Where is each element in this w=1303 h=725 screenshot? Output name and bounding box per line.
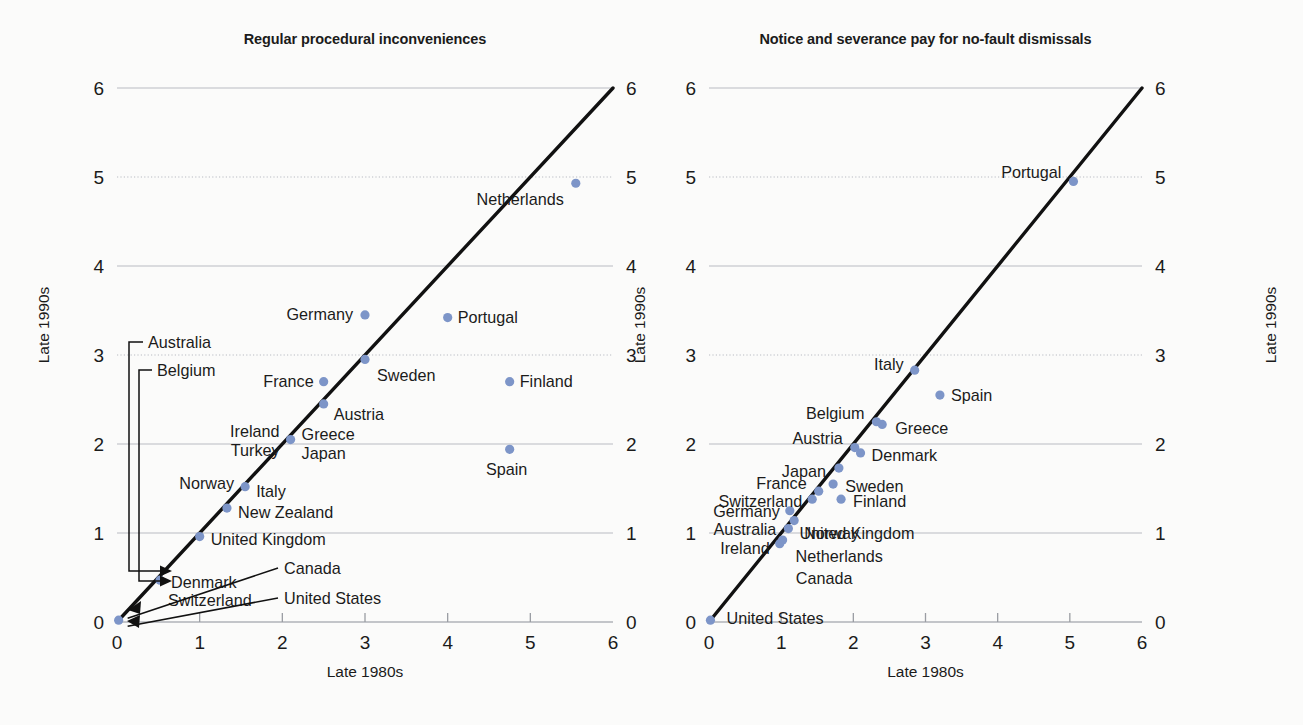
data-point-label: Spain xyxy=(486,460,527,478)
y-tick-label-left-6: 6 xyxy=(685,78,696,99)
data-point-label: United States xyxy=(284,589,381,607)
data-point-marker xyxy=(241,482,250,491)
y-tick-label-right-6: 6 xyxy=(626,78,637,99)
y-tick-label-right-1: 1 xyxy=(1155,523,1166,544)
y-tick-label-right-6: 6 xyxy=(1155,78,1166,99)
y-tick-label-left-4: 4 xyxy=(93,256,104,277)
x-tick-label-2: 2 xyxy=(848,632,859,653)
data-point-marker xyxy=(505,445,514,454)
x-tick-label-0: 0 xyxy=(704,632,715,653)
y-tick-label-right-1: 1 xyxy=(626,523,637,544)
y-tick-label-left-0: 0 xyxy=(685,612,696,633)
data-point-label: Finland xyxy=(853,492,906,510)
data-point-label: Canada xyxy=(284,559,341,577)
data-point-label: Netherlands xyxy=(796,547,883,565)
data-point-label: Australia xyxy=(148,333,211,351)
chart-panel-right: Notice and severance pay for no-fault di… xyxy=(660,0,1303,725)
data-point-label: Belgium xyxy=(157,361,215,379)
data-point-label: Germany xyxy=(713,502,780,520)
y-tick-label-left-5: 5 xyxy=(93,167,104,188)
data-point-label: Belgium xyxy=(806,404,864,422)
x-tick-label-6: 6 xyxy=(1137,632,1148,653)
data-point-label: Finland xyxy=(520,372,573,390)
y-tick-label-right-2: 2 xyxy=(626,434,637,455)
x-tick-label-5: 5 xyxy=(1065,632,1076,653)
data-point-marker xyxy=(808,495,817,504)
y-tick-label-right-4: 4 xyxy=(1155,256,1166,277)
y-axis-title-right: Late 1990s xyxy=(631,286,648,363)
data-point-label: United States xyxy=(726,609,823,627)
data-point-label: Denmark xyxy=(171,573,238,591)
data-point-marker xyxy=(829,479,838,488)
data-point-marker xyxy=(319,399,328,408)
y-axis-title-left: Late 1990s xyxy=(660,286,662,363)
data-point-marker xyxy=(814,487,823,496)
data-point-marker xyxy=(878,420,887,429)
y-tick-label-left-6: 6 xyxy=(93,78,104,99)
data-point-label: Japan xyxy=(302,444,346,462)
data-point-marker xyxy=(910,366,919,375)
data-point-marker xyxy=(114,616,123,625)
y-tick-label-right-2: 2 xyxy=(1155,434,1166,455)
data-point-marker xyxy=(286,435,295,444)
data-point-marker xyxy=(856,448,865,457)
data-point-marker xyxy=(195,532,204,541)
x-tick-label-4: 4 xyxy=(992,632,1003,653)
data-point-label: Norway xyxy=(179,474,235,492)
data-point-marker xyxy=(571,179,580,188)
data-point-marker xyxy=(1069,177,1078,186)
data-point-label: Portugal xyxy=(458,308,518,326)
x-axis-title: Late 1980s xyxy=(327,663,404,680)
data-point-label: France xyxy=(263,372,313,390)
chart-title: Notice and severance pay for no-fault di… xyxy=(759,31,1091,47)
y-tick-label-left-1: 1 xyxy=(93,523,104,544)
y-tick-label-left-3: 3 xyxy=(93,345,104,366)
y-tick-label-right-4: 4 xyxy=(626,256,637,277)
x-tick-label-1: 1 xyxy=(194,632,205,653)
y-tick-label-right-0: 0 xyxy=(1155,612,1166,633)
data-point-label: Netherlands xyxy=(477,190,564,208)
x-tick-label-2: 2 xyxy=(277,632,288,653)
data-point-label: Sweden xyxy=(377,366,436,384)
y-tick-label-left-2: 2 xyxy=(685,434,696,455)
data-point-label: Greece xyxy=(895,419,948,437)
data-point-marker xyxy=(935,390,944,399)
data-point-label: Italy xyxy=(256,482,287,500)
x-axis-title: Late 1980s xyxy=(887,663,964,680)
data-point-label: Germany xyxy=(286,305,353,323)
data-point-marker xyxy=(222,503,231,512)
data-point-marker xyxy=(360,310,369,319)
data-point-label: United Kingdom xyxy=(799,524,914,542)
y-tick-label-left-2: 2 xyxy=(93,434,104,455)
annotation-line-belgium xyxy=(139,370,160,581)
data-point-marker xyxy=(834,463,843,472)
data-point-marker xyxy=(360,355,369,364)
data-point-label: Canada xyxy=(796,569,853,587)
chart-panel-left: Regular procedural inconveniences0011223… xyxy=(0,0,660,725)
x-tick-label-5: 5 xyxy=(525,632,536,653)
data-point-marker xyxy=(775,539,784,548)
y-tick-label-right-3: 3 xyxy=(1155,345,1166,366)
data-point-label: Australia xyxy=(713,520,776,538)
data-point-marker xyxy=(790,516,799,525)
data-point-label: United Kingdom xyxy=(211,530,326,548)
y-axis-title-left: Late 1990s xyxy=(35,286,52,363)
y-axis-title-right: Late 1990s xyxy=(1262,286,1279,363)
y-tick-label-left-5: 5 xyxy=(685,167,696,188)
y-tick-label-left-4: 4 xyxy=(685,256,696,277)
y-tick-label-right-5: 5 xyxy=(626,167,637,188)
x-tick-label-0: 0 xyxy=(112,632,123,653)
x-tick-label-4: 4 xyxy=(442,632,453,653)
y-tick-label-right-5: 5 xyxy=(1155,167,1166,188)
data-point-label: Portugal xyxy=(1001,163,1061,181)
data-point-marker xyxy=(443,313,452,322)
data-point-marker xyxy=(706,616,715,625)
data-point-label: New Zealand xyxy=(238,503,333,521)
data-point-marker xyxy=(505,377,514,386)
x-tick-label-3: 3 xyxy=(360,632,371,653)
x-tick-label-3: 3 xyxy=(920,632,931,653)
y-tick-label-left-0: 0 xyxy=(93,612,104,633)
data-point-label: Austria xyxy=(334,405,384,423)
data-point-marker xyxy=(319,377,328,386)
chart-title: Regular procedural inconveniences xyxy=(244,31,487,47)
